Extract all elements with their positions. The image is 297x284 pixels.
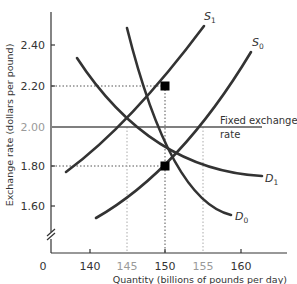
axes [47, 12, 287, 253]
x-tick-origin: 0 [40, 260, 47, 273]
x-tick-155: 155 [193, 260, 214, 273]
s1-label: S1 [204, 10, 216, 25]
s0-label: S0 [252, 36, 264, 51]
y-axis-title: Exchange rate (dollars per pound) [4, 44, 15, 207]
equilibrium-point-150-2-20 [161, 82, 170, 91]
y-tick-2-20: 2.20 [21, 80, 46, 93]
demand-curve-d0 [127, 28, 231, 215]
y-tick-1-60: 1.60 [21, 200, 46, 213]
fixed-exchange-label-line1: Fixed exchange [220, 115, 297, 126]
axis-break-mark [47, 233, 55, 240]
d1-label: D1 [265, 172, 278, 187]
x-tick-145: 145 [117, 260, 138, 273]
y-tick-2-40: 2.40 [21, 39, 46, 52]
x-tick-150: 150 [155, 260, 176, 273]
fixed-exchange-label-line2: rate [220, 129, 240, 140]
x-tick-160: 160 [231, 260, 252, 273]
y-tick-1-80: 1.80 [21, 160, 46, 173]
equilibrium-point-150-1-80 [161, 162, 170, 171]
supply-curve-s1 [66, 26, 204, 172]
x-axis-title: Quantity (billions of pounds per day) [113, 274, 287, 284]
y-tick-2-00: 2.00 [21, 121, 46, 134]
x-tick-140: 140 [80, 260, 101, 273]
d0-label: D0 [235, 210, 248, 225]
exchange-rate-chart: S1 S0 D1 D0 Fixed exchange rate 2.40 2.2… [0, 0, 297, 284]
